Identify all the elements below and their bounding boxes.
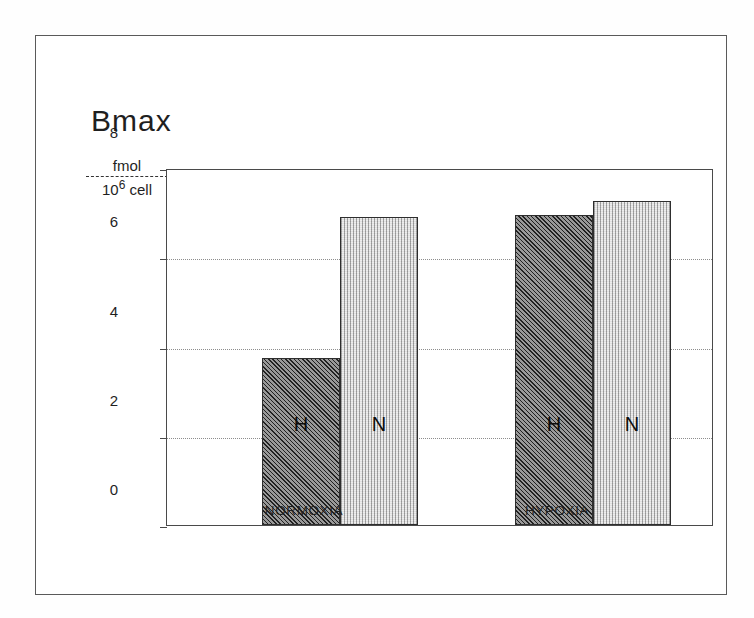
bar-letter-n: N: [372, 413, 386, 436]
y-axis-unit-numerator: fmol: [84, 158, 170, 175]
plot-area: HNHN: [166, 169, 713, 526]
y-axis-tick-label-0: 0: [84, 481, 118, 498]
y-axis-tick-2: [160, 438, 167, 439]
y-axis-tick-label-4: 4: [84, 303, 118, 320]
x-axis-category-label-hypoxia: HYPOXIA: [477, 503, 637, 518]
plot-inner: HNHN: [167, 170, 712, 525]
y-axis-tick-0: [160, 527, 167, 528]
y-axis-unit-denominator-exponent: 6: [119, 178, 126, 192]
y-axis-tick-4: [160, 349, 167, 350]
y-axis-tick-8: [160, 170, 167, 171]
bar-normoxia-n[interactable]: N: [340, 217, 418, 525]
fraction-rule: [86, 176, 168, 177]
y-axis-tick-label-2: 2: [84, 392, 118, 409]
y-axis-tick-label-6: 6: [84, 213, 118, 230]
figure-outer-frame: Bmax fmol 106 cell HNHN 02468NORMOXIAHYP…: [35, 35, 727, 595]
bar-hypoxia-h[interactable]: H: [515, 215, 593, 525]
bar-letter-n: N: [625, 413, 639, 436]
x-axis-category-label-normoxia: NORMOXIA: [224, 503, 384, 518]
bar-normoxia-h[interactable]: H: [262, 358, 340, 525]
bar-letter-h: H: [294, 413, 308, 436]
y-axis-tick-6: [160, 259, 167, 260]
y-axis-unit-denominator: 106 cell: [84, 178, 170, 198]
y-axis-tick-label-8: 8: [84, 124, 118, 141]
figure-page: Bmax fmol 106 cell HNHN 02468NORMOXIAHYP…: [0, 0, 754, 618]
bar-hypoxia-n[interactable]: N: [593, 201, 671, 525]
y-axis-unit-denominator-suffix: cell: [130, 181, 153, 198]
y-axis-unit-label: fmol 106 cell: [84, 158, 170, 198]
y-axis-unit-denominator-base: 10: [102, 181, 119, 198]
bar-letter-h: H: [547, 413, 561, 436]
